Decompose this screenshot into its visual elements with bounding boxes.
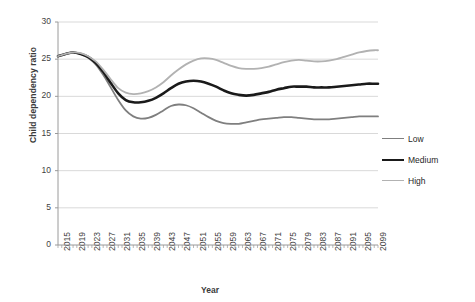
chart-legend: LowMediumHigh <box>382 128 438 191</box>
chart-container: Child dependency ratio Year 051015202530… <box>0 0 475 302</box>
legend-item-low[interactable]: Low <box>382 128 438 149</box>
legend-label: Medium <box>408 155 438 165</box>
legend-item-medium[interactable]: Medium <box>382 149 438 170</box>
legend-label: High <box>408 176 425 186</box>
legend-swatch-icon <box>382 138 404 139</box>
legend-label: Low <box>408 134 424 144</box>
legend-swatch-icon <box>382 180 404 181</box>
legend-swatch-icon <box>382 159 404 161</box>
legend-item-high[interactable]: High <box>382 170 438 191</box>
